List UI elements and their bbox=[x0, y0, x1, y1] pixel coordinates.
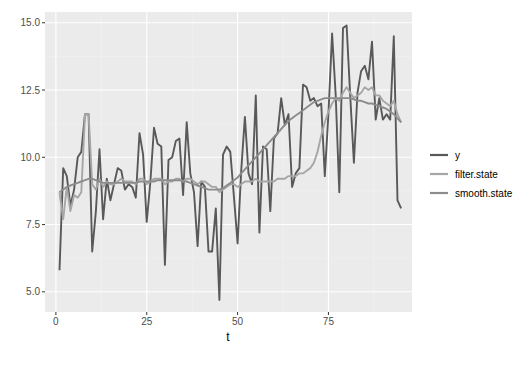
legend: yfilter.statesmooth.state bbox=[430, 150, 513, 199]
x-axis: 0255075 bbox=[53, 312, 334, 327]
x-axis-title: t bbox=[226, 330, 230, 344]
y-tick-label: 5.0 bbox=[26, 286, 40, 297]
legend-item-y: y bbox=[430, 150, 460, 161]
legend-item-smooth-state: smooth.state bbox=[430, 188, 513, 199]
x-tick-label: 0 bbox=[53, 316, 59, 327]
y-tick-label: 12.5 bbox=[21, 85, 41, 96]
x-tick-label: 25 bbox=[141, 316, 153, 327]
y-tick-label: 7.5 bbox=[26, 219, 40, 230]
x-tick-label: 50 bbox=[232, 316, 244, 327]
y-tick-label: 15.0 bbox=[21, 17, 41, 28]
legend-label: filter.state bbox=[455, 169, 498, 180]
line-chart: 0255075 5.07.510.012.515.0 t yfilter.sta… bbox=[0, 0, 528, 366]
y-axis: 5.07.510.012.515.0 bbox=[21, 17, 45, 297]
legend-label: smooth.state bbox=[455, 188, 513, 199]
y-tick-label: 10.0 bbox=[21, 152, 41, 163]
legend-item-filter-state: filter.state bbox=[430, 169, 498, 180]
legend-label: y bbox=[455, 150, 460, 161]
x-tick-label: 75 bbox=[323, 316, 335, 327]
